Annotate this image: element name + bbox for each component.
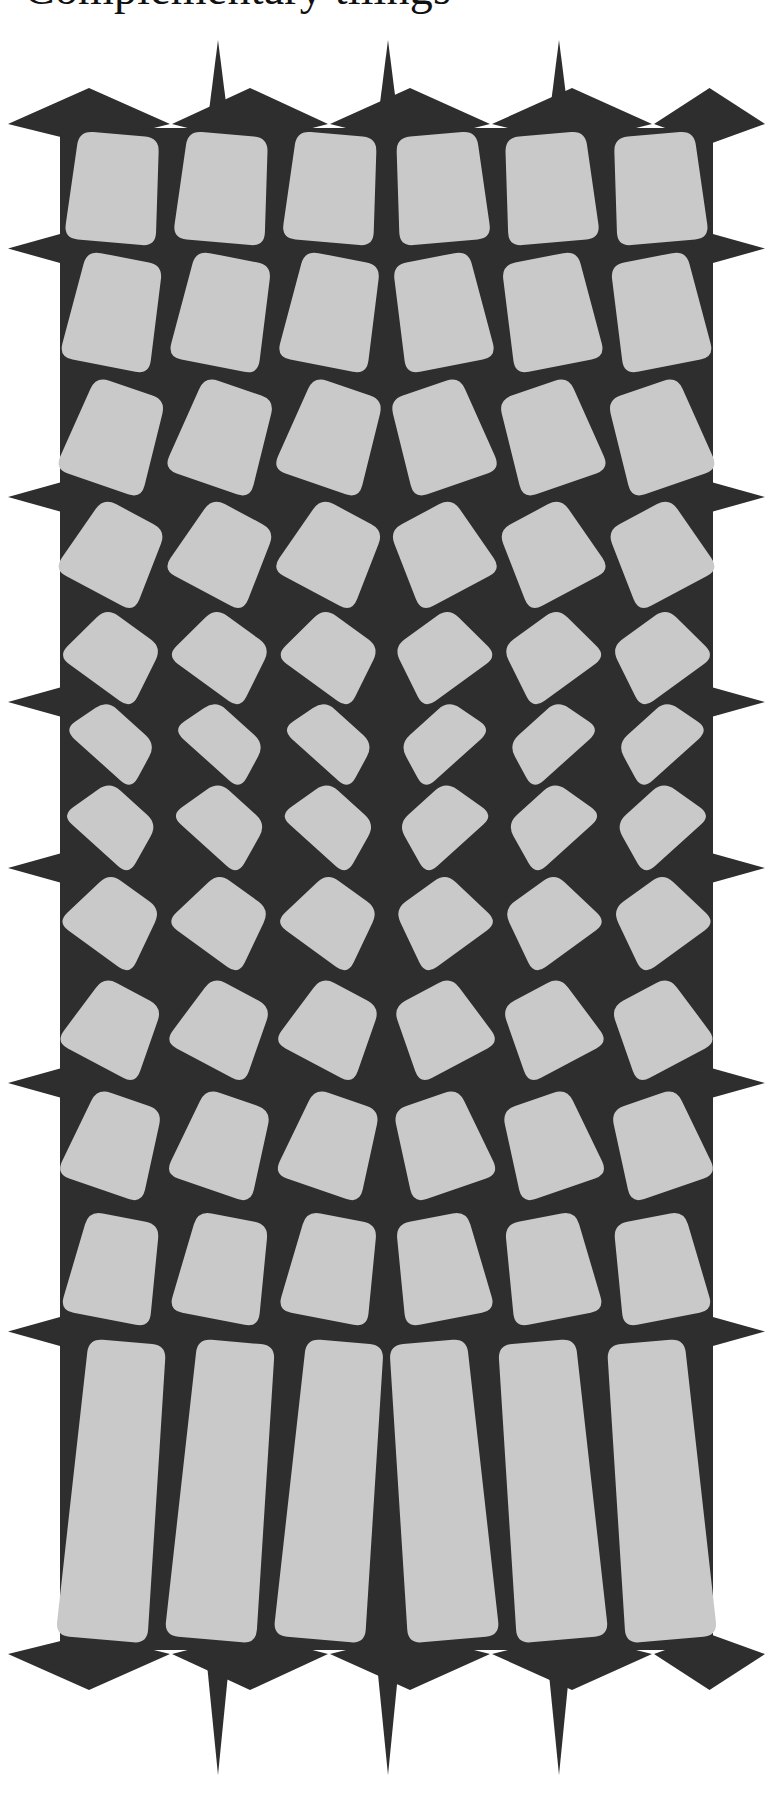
tiling-figure xyxy=(0,22,773,1808)
tiling-figure-svg xyxy=(0,22,773,1808)
page-canvas: Complementary tilings xyxy=(0,0,773,1808)
running-title-strip: Complementary tilings xyxy=(0,0,773,22)
tile-r0-c5 xyxy=(614,132,707,245)
page-title: Complementary tilings xyxy=(24,0,451,12)
tile-r0-c4 xyxy=(506,132,599,245)
tile-r0-c1 xyxy=(174,132,267,245)
tile-r0-c3 xyxy=(397,132,490,245)
tile-r0-c0 xyxy=(66,132,159,245)
tile-r0-c2 xyxy=(283,132,376,245)
